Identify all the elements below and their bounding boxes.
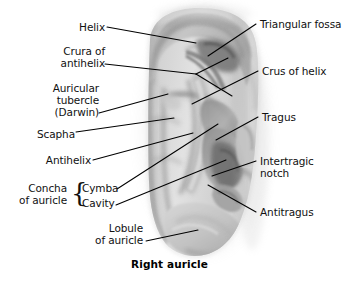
label-antitragus: Antitragus: [260, 206, 314, 218]
label-crus-of-helix: Crus of helix: [262, 65, 326, 77]
label-auricular-tubercle-line2: tubercle: [57, 94, 99, 106]
label-tragus: Tragus: [262, 111, 296, 123]
label-concha-of-auricle-line1: Concha: [28, 182, 67, 194]
label-cavity: Cavity: [82, 197, 115, 209]
label-intertragic-notch-line2: notch: [260, 167, 289, 179]
label-concha-of-auricle-line2: of auricle: [19, 194, 67, 206]
label-crura-of-antihelix-line2: antihelix: [61, 57, 105, 69]
label-scapha: Scapha: [37, 128, 75, 140]
label-cymba: Cymba: [82, 182, 118, 194]
label-helix: Helix: [79, 21, 105, 33]
label-auricular-tubercle-line1: Auricular: [53, 82, 99, 94]
figure-caption: Right auricle: [131, 258, 208, 270]
label-auricular-tubercle-line3: (Darwin): [55, 106, 99, 118]
label-lobule-of-auricle-line1: Lobule: [109, 222, 143, 234]
right-auricle-figure: Helix Crura of antihelix Auricular tuber…: [0, 0, 361, 283]
label-intertragic-notch-line1: Intertragic: [260, 155, 314, 167]
label-triangular-fossa: Triangular fossa: [260, 18, 341, 30]
label-crura-of-antihelix-line1: Crura of: [63, 45, 105, 57]
label-lobule-of-auricle-line2: of auricle: [95, 234, 143, 246]
label-antihelix: Antihelix: [46, 154, 91, 166]
ear-illustration: [0, 0, 361, 283]
